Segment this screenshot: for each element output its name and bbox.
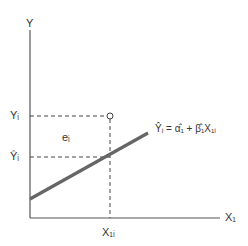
regression-line: [30, 133, 148, 199]
fitted-y-label: Ŷᵢ: [10, 151, 19, 162]
observed-point: [107, 113, 113, 119]
observed-y-label: Yᵢ: [10, 110, 19, 121]
residual-label: eᵢ: [62, 132, 70, 143]
x-axis-label: X₁: [225, 212, 236, 223]
x-value-label: X₁ᵢ: [102, 227, 115, 238]
regression-equation: Ŷᵢ = α̂₁ + β̂₁X₁ᵢ: [155, 124, 216, 134]
y-axis-label: Y: [26, 18, 33, 29]
